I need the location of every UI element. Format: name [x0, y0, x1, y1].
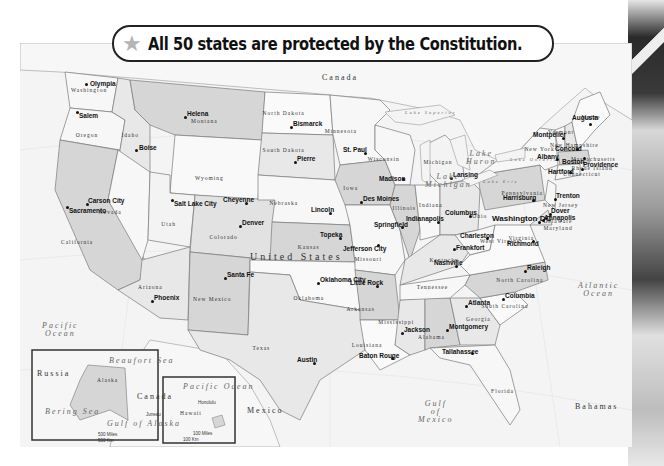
capital-label: Richmond — [507, 241, 539, 248]
capital-label: Montpelier — [533, 132, 566, 139]
state-label: Florida — [491, 389, 514, 395]
state-label: Michigan — [423, 160, 452, 166]
capital-label: Boise — [139, 145, 157, 152]
capital-label: Columbia — [505, 293, 535, 300]
state-label: Louisiana — [352, 343, 383, 349]
capital-label: Columbus — [445, 210, 477, 217]
capital-label: Indianapolis — [406, 216, 444, 223]
water-label: Lake Erie — [483, 180, 519, 185]
capital-label: Trenton — [556, 193, 580, 200]
state-label: Maryland — [543, 226, 572, 232]
capital-label: Frankfort — [456, 245, 485, 252]
capital-label: Harrisburg — [503, 195, 536, 202]
water-label: PacificOcean — [42, 322, 79, 338]
alaska-inset-label: Canada — [137, 393, 173, 401]
hawaii-inset-label: Pacific Ocean — [183, 383, 255, 391]
alaska-inset-label: Russia — [37, 370, 70, 378]
capital-label: St. Paul — [343, 147, 367, 154]
capital-label: Pierre — [297, 156, 315, 163]
state-label: Indiana — [419, 203, 443, 209]
background-photo-strip — [628, 0, 664, 466]
capital-label: Bismarck — [293, 121, 322, 128]
capital-label: Lincoln — [311, 207, 334, 214]
state-label: North Dakota — [263, 111, 305, 117]
capital-star-icon — [85, 83, 88, 86]
capital-label: Washington DC — [492, 215, 551, 223]
star-icon: ★ — [122, 33, 142, 55]
capital-label: Raleigh — [527, 265, 550, 272]
map-shapes — [20, 43, 632, 447]
capital-label: Salt Lake City — [174, 201, 217, 208]
capital-label: Olympia — [90, 81, 116, 88]
state-label: Kansas — [298, 245, 320, 251]
capital-label: Helena — [187, 111, 208, 118]
state-label: Georgia — [466, 317, 491, 323]
state-label: Nebraska — [269, 201, 298, 207]
capital-label: Baton Rouge — [359, 353, 399, 360]
state-wyoming — [170, 135, 262, 200]
title-banner: ★ All 50 states are protected by the Con… — [112, 25, 554, 62]
alaska-inset-label: Alaska — [97, 378, 118, 384]
state-label: Utah — [161, 222, 176, 228]
capital-label: Carson City — [88, 198, 124, 205]
water-label: GulfofMexico — [418, 400, 454, 424]
hawaii-inset-label: Hawaii — [180, 411, 202, 417]
state-label: Alabama — [418, 335, 445, 341]
capital-label: Concord — [555, 146, 582, 153]
capital-star-icon — [135, 149, 138, 152]
capital-label: Des Moines — [363, 196, 399, 203]
water-label: LakeMichigan — [425, 173, 472, 189]
capital-label: Cheyenne — [223, 197, 254, 204]
state-label: Illinois — [392, 206, 416, 212]
capital-label: Tallahassee — [442, 349, 478, 356]
hawaii-inset-label: 100 Miles — [193, 432, 212, 437]
capital-label: Atlanta — [468, 300, 490, 307]
state-label: Tennessee — [417, 285, 449, 291]
us-map — [20, 43, 632, 447]
state-label: Idaho — [122, 133, 140, 139]
state-label: Arkansas — [346, 307, 374, 313]
capital-label: Phoenix — [154, 295, 179, 302]
capital-label: Jefferson City — [343, 246, 386, 253]
state-label: Washington — [71, 88, 107, 94]
state-label: Wisconsin — [368, 157, 400, 163]
state-label: Iowa — [343, 186, 358, 192]
water-label: AtlanticOcean — [578, 282, 619, 298]
capital-label: Austin — [297, 357, 317, 364]
capital-label: Madison — [379, 176, 405, 183]
capital-label: Little Rock — [350, 280, 383, 287]
alaska-inset-label: 500 Miles — [98, 433, 117, 438]
state-label: Arizona — [138, 285, 163, 291]
capital-star-icon — [589, 123, 592, 126]
place-label: Bahamas — [575, 403, 618, 411]
state-label: Montana — [191, 119, 218, 125]
capital-label: Sacramento — [69, 208, 106, 215]
capital-label: Santa Fe — [227, 272, 254, 279]
state-label: Mississippi — [378, 320, 414, 326]
alaska-inset-label: Beaufort Sea — [109, 357, 175, 365]
state-label: South Dakota — [263, 148, 305, 154]
capital-label: Springfield — [374, 222, 408, 229]
capital-label: Salem — [79, 113, 98, 120]
capital-label: Nashville — [434, 260, 463, 267]
hawaii-inset-label: Honolulu — [198, 401, 216, 406]
capital-label: Providence — [583, 162, 618, 169]
state-label: Missouri — [354, 257, 382, 263]
state-label: Minnesota — [325, 129, 357, 135]
state-label: Oregon — [76, 133, 99, 139]
capital-label: Hartford — [548, 169, 574, 176]
alaska-inset-label: 500 Km — [98, 439, 114, 444]
capital-label: Montgomery — [449, 324, 488, 331]
state-label: California — [61, 240, 93, 246]
capital-label: Jackson — [404, 327, 430, 334]
state-label: Colorado — [209, 235, 237, 241]
alaska-inset-label: Gulf of Alaska — [107, 420, 181, 428]
country-label: Mexico — [247, 407, 283, 415]
water-label: LakeHuron — [466, 150, 497, 166]
state-label: Oklahoma — [293, 296, 324, 302]
state-label: North Carolina — [496, 278, 543, 284]
capital-label: Boston — [562, 159, 584, 166]
capital-label: Topeka — [320, 232, 342, 239]
state-label: Wyoming — [195, 176, 224, 182]
photo-highlight — [628, 20, 664, 80]
